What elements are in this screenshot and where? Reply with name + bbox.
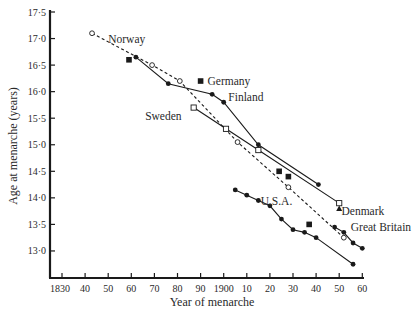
data-point: [306, 222, 312, 228]
data-point: [279, 217, 284, 222]
data-point: [221, 100, 226, 105]
data-point: [341, 230, 346, 235]
y-tick-label: 15·0: [28, 139, 46, 150]
x-tick-label: 40: [311, 283, 321, 294]
x-axis-label: Year of menarche: [170, 295, 255, 309]
data-point: [351, 241, 356, 246]
chart-canvas: 13·013·514·014·515·015·516·016·517·017·5…: [0, 0, 419, 318]
data-point: [316, 182, 321, 187]
y-tick-label: 14·5: [28, 166, 46, 177]
data-point: [332, 225, 337, 230]
series-label: Denmark: [342, 205, 385, 217]
series-label: Germany: [208, 75, 251, 88]
data-point: [360, 246, 365, 251]
series-label: Norway: [108, 33, 145, 46]
data-point: [233, 187, 238, 192]
data-point: [341, 235, 346, 240]
x-tick-label: 70: [149, 283, 159, 294]
data-point: [90, 31, 95, 36]
x-tick-label: 1830: [50, 283, 70, 294]
data-point: [302, 230, 307, 235]
series-line: [194, 108, 340, 204]
x-tick-label: 20: [265, 283, 275, 294]
y-tick-label: 13·5: [28, 219, 46, 230]
y-tick-label: 17·5: [28, 7, 46, 18]
axes: 13·013·514·014·515·015·516·016·517·017·5…: [28, 7, 368, 295]
data-point: [134, 55, 139, 60]
data-point: [256, 142, 261, 147]
y-tick-label: 13·0: [28, 245, 46, 256]
data-point: [286, 174, 292, 180]
y-tick-label: 14·0: [28, 192, 46, 203]
data-point: [256, 147, 261, 152]
series-label: U.S.A.: [261, 195, 293, 207]
data-point: [244, 193, 249, 198]
data-point: [198, 78, 204, 84]
annotation-layer: NorwayGermanyFinlandSwedenDenmarkU.S.A.G…: [108, 33, 411, 234]
data-point: [210, 92, 215, 97]
data-point: [126, 57, 132, 63]
data-point: [166, 81, 171, 86]
y-tick-label: 16·0: [28, 86, 46, 97]
series-label: Great Britain: [351, 221, 412, 233]
series-label: Finland: [228, 91, 263, 103]
data-point: [291, 227, 296, 232]
x-tick-label: 60: [357, 283, 367, 294]
data-point: [314, 235, 319, 240]
data-point: [150, 63, 155, 68]
data-point: [276, 169, 282, 175]
x-tick-label: 10: [242, 283, 252, 294]
menarche-chart: 13·013·514·014·515·015·516·016·517·017·5…: [0, 0, 419, 318]
series-line: [92, 33, 344, 237]
y-tick-label: 15·5: [28, 113, 46, 124]
y-tick-label: 17·0: [28, 33, 46, 44]
series-u-s-a: [233, 187, 356, 266]
x-tick-label: 50: [334, 283, 344, 294]
x-tick-label: 80: [173, 283, 183, 294]
x-tick-label: 90: [196, 283, 206, 294]
data-point: [351, 262, 356, 267]
series-label: Sweden: [145, 110, 182, 122]
x-tick-label: 40: [80, 283, 90, 294]
data-point: [223, 126, 228, 131]
data-point: [177, 79, 182, 84]
x-tick-label: 60: [126, 283, 136, 294]
data-point: [191, 105, 196, 110]
data-point: [235, 140, 240, 145]
y-axis-label: Age at menarche (years): [6, 87, 20, 205]
x-tick-label: 1900: [214, 283, 234, 294]
series-layer: [90, 31, 365, 267]
y-tick-label: 16·5: [28, 60, 46, 71]
x-tick-label: 30: [288, 283, 298, 294]
x-tick-label: 50: [103, 283, 113, 294]
data-point: [286, 185, 291, 190]
series-sweden: [191, 105, 342, 206]
